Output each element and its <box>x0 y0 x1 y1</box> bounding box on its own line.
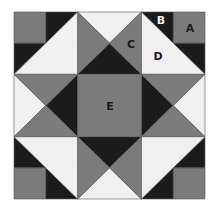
piece-a-bottom-left <box>14 168 46 199</box>
piece-a-bottom-right <box>173 168 205 199</box>
label-b: B <box>157 14 165 27</box>
label-a: A <box>186 22 195 35</box>
piece-a-top-left <box>14 12 46 43</box>
label-e: E <box>106 100 114 113</box>
label-c: C <box>127 38 135 51</box>
quilt-block-diagram: ABCDE <box>0 0 216 212</box>
label-d: D <box>153 50 162 63</box>
